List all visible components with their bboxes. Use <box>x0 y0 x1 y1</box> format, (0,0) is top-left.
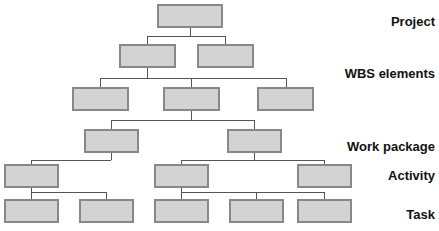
activity-box-2[interactable] <box>155 165 208 187</box>
level-label-wbs-elements: WBS elements <box>345 66 435 81</box>
project-box-1[interactable] <box>158 5 222 27</box>
work-package-box-1[interactable] <box>85 130 138 152</box>
work-package-box-2[interactable] <box>228 130 281 152</box>
task-box-2[interactable] <box>80 200 133 222</box>
level-label-activity: Activity <box>388 168 435 183</box>
level-label-project: Project <box>391 14 435 29</box>
task-box-1[interactable] <box>5 200 58 222</box>
wbs-box-3[interactable] <box>73 88 128 110</box>
task-box-4[interactable] <box>230 200 283 222</box>
level-label-task: Task <box>406 207 435 222</box>
activity-box-3[interactable] <box>298 165 351 187</box>
activity-box-1[interactable] <box>5 165 58 187</box>
wbs-box-5[interactable] <box>258 88 313 110</box>
wbs-diagram: ProjectWBS elementsWork packageActivityT… <box>0 0 439 231</box>
wbs-diagram-canvas <box>0 0 439 231</box>
wbs-box-4[interactable] <box>164 88 219 110</box>
box-layer <box>5 5 351 222</box>
task-box-5[interactable] <box>298 200 351 222</box>
wbs-box-2[interactable] <box>198 45 253 67</box>
connector-project-to-wbs <box>147 27 190 45</box>
task-box-3[interactable] <box>155 200 208 222</box>
connector-project-to-wbs-right <box>190 36 225 45</box>
level-label-work-package: Work package <box>347 139 435 154</box>
wbs-box-1[interactable] <box>120 45 175 67</box>
